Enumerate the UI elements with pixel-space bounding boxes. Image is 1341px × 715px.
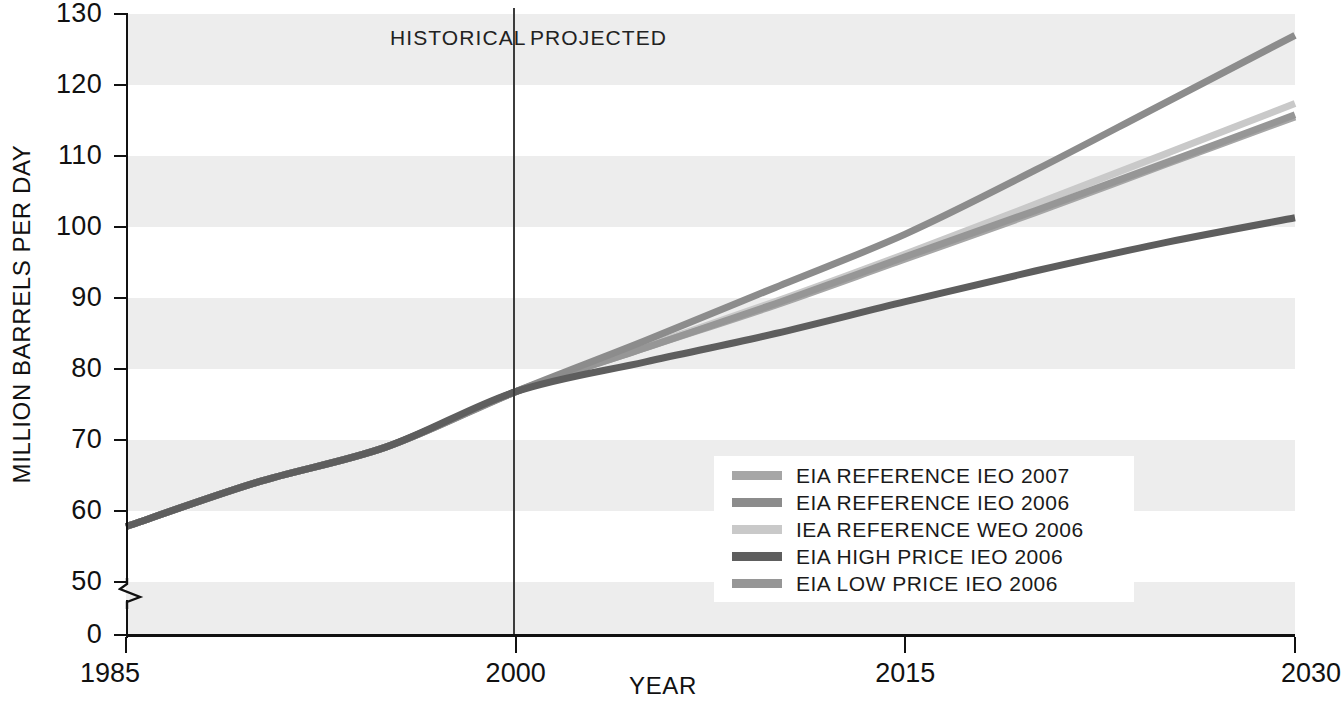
x-axis-tick	[515, 637, 517, 653]
y-axis-tick-label: 120	[2, 71, 102, 98]
y-axis-tick	[114, 439, 128, 441]
y-axis-tick	[114, 368, 128, 370]
y-axis-tick	[114, 226, 128, 228]
legend-label: EIA REFERENCE IEO 2007	[796, 464, 1070, 488]
legend-item: EIA HIGH PRICE IEO 2006	[714, 543, 1134, 570]
legend-label: EIA REFERENCE IEO 2006	[796, 491, 1070, 515]
legend-item: IEA REFERENCE WEO 2006	[714, 516, 1134, 543]
y-axis-title: MILLION BARRELS PER DAY	[8, 104, 36, 524]
x-axis-title: YEAR	[0, 672, 1326, 700]
y-axis-tick-label: 130	[2, 0, 102, 27]
x-axis-tick	[1294, 637, 1296, 653]
legend: EIA REFERENCE IEO 2007EIA REFERENCE IEO …	[714, 456, 1134, 602]
y-axis-tick	[114, 510, 128, 512]
historical-label: HISTORICAL	[390, 26, 527, 50]
legend-label: IEA REFERENCE WEO 2006	[796, 518, 1084, 542]
legend-swatch	[732, 471, 782, 480]
y-axis-tick-label: 50	[2, 568, 102, 595]
y-axis-tick	[114, 581, 128, 583]
legend-swatch	[732, 579, 782, 588]
y-axis-tick	[114, 155, 128, 157]
legend-label: EIA HIGH PRICE IEO 2006	[796, 545, 1063, 569]
y-axis-tick	[114, 297, 128, 299]
period-divider-line	[513, 8, 515, 634]
legend-item: EIA REFERENCE IEO 2007	[714, 462, 1134, 489]
projected-label: PROJECTED	[530, 26, 667, 50]
legend-label: EIA LOW PRICE IEO 2006	[796, 572, 1058, 596]
y-axis-tick	[114, 13, 128, 15]
legend-swatch	[732, 525, 782, 534]
y-axis-tick	[114, 84, 128, 86]
x-axis-tick	[904, 637, 906, 653]
series-line	[126, 35, 1295, 526]
x-axis-line	[126, 634, 1295, 637]
legend-item: EIA LOW PRICE IEO 2006	[714, 570, 1134, 597]
x-axis-tick	[125, 637, 127, 653]
y-axis-tick-label: 0	[2, 621, 102, 648]
legend-item: EIA REFERENCE IEO 2006	[714, 489, 1134, 516]
legend-swatch	[732, 498, 782, 507]
legend-swatch	[732, 552, 782, 561]
y-axis-tick	[114, 634, 128, 636]
